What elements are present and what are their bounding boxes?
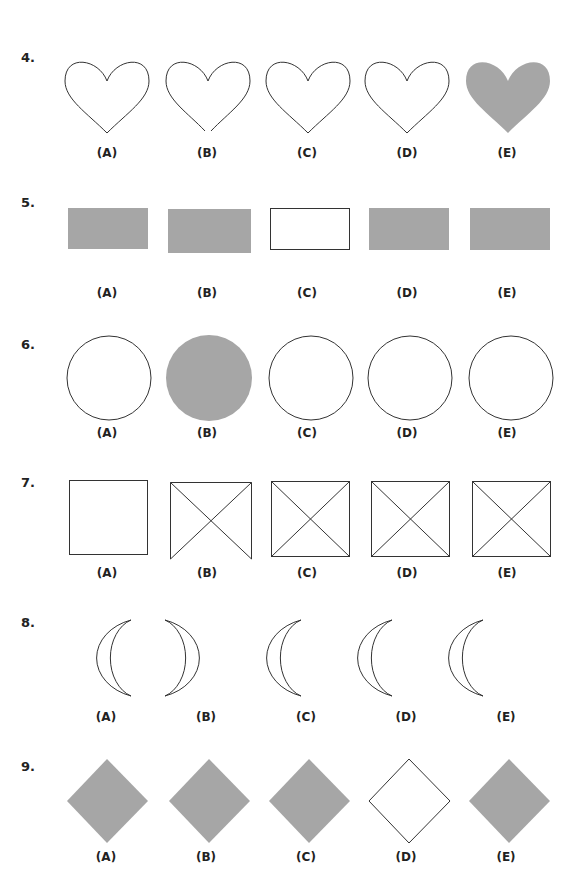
option-label-4a: (A) [77,146,137,160]
question-4-shapes [0,55,579,155]
circle-icon-b-filled [166,335,252,421]
diamond-icon-d [369,759,450,843]
option-label-8d: (D) [376,710,436,724]
crescent-icon-c [267,620,301,696]
option-label-5c: (C) [277,286,337,300]
diamond-icon-c-filled [269,759,350,843]
option-label-6c: (C) [277,426,337,440]
option-label-4e: (E) [477,146,537,160]
option-label-7e: (E) [477,566,537,580]
option-label-7a: (A) [77,566,137,580]
option-label-5e: (E) [477,286,537,300]
option-label-8c: (C) [276,710,336,724]
option-label-8e: (E) [476,710,536,724]
heart-icon-d [365,62,449,133]
option-label-7b: (B) [177,566,237,580]
rectangle-icon-d-filled [369,208,449,250]
option-label-6a: (A) [77,426,137,440]
square-x-icon-c [272,482,350,557]
question-8-shapes [0,620,579,710]
option-label-9d: (D) [376,850,436,864]
option-label-6b: (B) [177,426,237,440]
heart-icon-e-filled [466,62,550,133]
heart-icon-c [266,62,350,133]
square-x-icon-e [473,482,551,557]
rectangle-icon-a-filled [68,208,148,249]
option-label-9b: (B) [176,850,236,864]
option-label-5b: (B) [177,286,237,300]
crescent-icon-e [449,620,483,696]
square-x-icon-d [372,482,450,557]
circle-icon-e [469,336,553,420]
option-label-8a: (A) [76,710,136,724]
option-label-6e: (E) [477,426,537,440]
option-label-5d: (D) [377,286,437,300]
option-label-4d: (D) [377,146,437,160]
question-5-shapes [0,200,579,260]
question-7-shapes [0,480,579,570]
option-label-4b: (B) [177,146,237,160]
option-label-8b: (B) [176,710,236,724]
rectangle-icon-e-filled [470,208,550,250]
circle-icon-d [368,336,452,420]
diamond-icon-b-filled [169,759,250,843]
option-label-6d: (D) [377,426,437,440]
diamond-icon-a-filled [67,759,148,843]
rectangle-icon-b-filled [168,209,251,253]
circle-icon-c [269,336,353,420]
crescent-icon-d [358,620,392,696]
diamond-icon-e-filled [469,759,550,843]
option-label-9e: (E) [476,850,536,864]
crescent-icon-b-reversed [165,620,199,696]
circle-icon-a [67,336,151,420]
option-label-7c: (C) [277,566,337,580]
option-label-9c: (C) [276,850,336,864]
option-label-4c: (C) [277,146,337,160]
rectangle-icon-c [271,209,350,250]
heart-icon-a [65,62,149,133]
square-x-icon-b [171,483,252,560]
question-6-shapes [0,335,579,435]
square-icon-a [70,481,148,555]
heart-icon-b [166,62,250,131]
option-label-9a: (A) [76,850,136,864]
question-9-shapes [0,759,579,849]
crescent-icon-a [97,620,131,696]
option-label-7d: (D) [377,566,437,580]
option-label-5a: (A) [77,286,137,300]
